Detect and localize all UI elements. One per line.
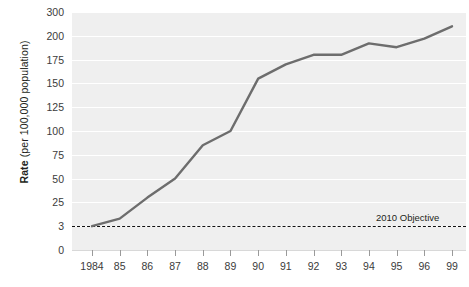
x-axis-tick: [258, 250, 259, 256]
plot-area: 2010 Objective: [72, 12, 466, 250]
y-axis-tick-200: 200: [20, 31, 64, 41]
x-axis-tick: [230, 250, 231, 256]
y-axis-tick-100: 100: [20, 126, 64, 136]
y-axis-tick-25: 25: [20, 197, 64, 207]
x-axis-tick: [286, 250, 287, 256]
y-axis-tick-300: 300: [20, 7, 64, 17]
data-series-line: [72, 12, 466, 250]
y-axis-tick-50: 50: [20, 174, 64, 184]
x-axis-tick: [424, 250, 425, 256]
line-chart: Rate (per 100,000 population) 3002001751…: [0, 0, 469, 287]
x-axis-tick-label-99: 99: [432, 260, 469, 272]
y-axis-tick-175: 175: [20, 55, 64, 65]
y-axis-tick-150: 150: [20, 78, 64, 88]
x-axis: 198485868788899091929394959699: [72, 250, 466, 287]
y-axis-tick-75: 75: [20, 150, 64, 160]
x-axis-tick: [314, 250, 315, 256]
y-axis-tick-labels: 30020017515012510075502530: [0, 0, 68, 287]
x-axis-tick: [369, 250, 370, 256]
x-axis-tick: [147, 250, 148, 256]
y-axis-tick-3: 3: [20, 221, 64, 231]
x-axis-tick: [92, 250, 93, 256]
x-axis-tick: [120, 250, 121, 256]
x-axis-tick: [341, 250, 342, 256]
x-axis-tick: [203, 250, 204, 256]
y-axis-tick-0: 0: [20, 245, 64, 255]
x-axis-tick: [397, 250, 398, 256]
y-axis-tick-125: 125: [20, 102, 64, 112]
x-axis-tick: [175, 250, 176, 256]
x-axis-tick: [452, 250, 453, 256]
